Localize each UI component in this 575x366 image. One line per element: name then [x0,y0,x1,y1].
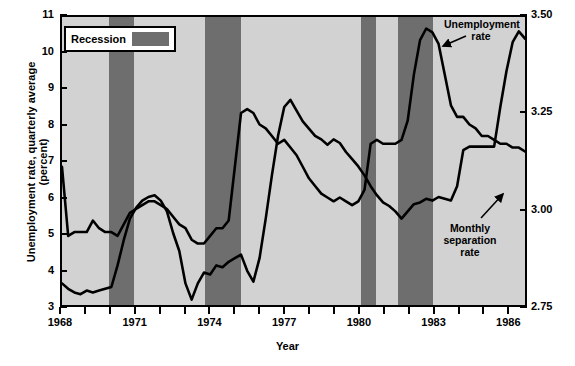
x-tick-label-1977: 1977 [259,316,309,328]
x-tick-label-1980: 1980 [334,316,384,328]
x-tick-1971 [134,307,136,314]
y-axis-title-left: Unemployment rate, quarterly average (pe… [25,37,49,287]
x-tick-1974 [208,307,210,314]
x-tick-1979 [333,307,335,314]
x-tick-1968 [59,307,61,314]
y-tick-label-left-3: 3 [14,300,54,312]
x-tick-1981 [383,307,385,314]
x-tick-1978 [308,307,310,314]
y-tick-right-3.5 [520,14,527,16]
x-tick-label-1974: 1974 [184,316,234,328]
x-tick-1970 [109,307,111,314]
x-tick-1984 [458,307,460,314]
y-tick-right-3.25 [520,111,527,113]
x-tick-1986 [507,307,509,314]
y-tick-left-10 [60,51,67,53]
y-tick-left-4 [60,270,67,272]
y-tick-left-8 [60,124,67,126]
x-tick-1977 [283,307,285,314]
line-monthly-separation-rate [62,29,525,244]
x-tick-1975 [233,307,235,314]
y-tick-left-3 [60,306,67,308]
y-tick-label-right-3: 3.00 [531,203,575,215]
y-tick-left-11 [60,14,67,16]
x-tick-1972 [159,307,161,314]
x-tick-1969 [84,307,86,314]
y-tick-left-5 [60,233,67,235]
legend-swatch-recession [132,32,169,46]
y-tick-right-2.75 [520,306,527,308]
legend: Recession [64,26,176,52]
y-tick-left-7 [60,160,67,162]
x-tick-1985 [482,307,484,314]
y-tick-label-right-3.5: 3.50 [531,8,575,20]
x-tick-1973 [184,307,186,314]
x-tick-1982 [408,307,410,314]
y-tick-left-6 [60,197,67,199]
x-tick-label-1971: 1971 [110,316,160,328]
chart-figure: Recession 345678910112.753.003.253.50196… [0,0,575,366]
y-tick-label-left-11: 11 [14,8,54,20]
x-axis-title: Year [0,340,575,352]
x-tick-1976 [258,307,260,314]
x-tick-label-1986: 1986 [483,316,533,328]
annotation-separation-rate: Monthly separation rate [434,222,506,258]
series-lines [62,17,525,305]
y-tick-right-3 [520,209,527,211]
y-tick-left-9 [60,87,67,89]
x-tick-1980 [358,307,360,314]
annotation-unemployment-rate: Unemployment rate [444,18,518,42]
y-tick-label-right-2.75: 2.75 [531,300,575,312]
plot-area [60,15,527,307]
y-tick-label-right-3.25: 3.25 [531,105,575,117]
x-tick-label-1983: 1983 [409,316,459,328]
x-tick-label-1968: 1968 [35,316,85,328]
legend-label-recession: Recession [71,33,126,45]
line-unemployment-rate [62,31,525,299]
x-tick-1983 [433,307,435,314]
